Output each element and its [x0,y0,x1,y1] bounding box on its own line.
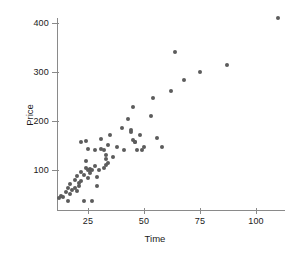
scatter-plot: 255075100 100200300400 Time Price [0,0,297,255]
y-axis-line [57,18,58,211]
data-point [66,199,70,203]
data-point [99,137,103,141]
data-point [198,70,202,74]
x-tick-label: 75 [195,216,205,226]
data-point [97,168,101,172]
data-point [86,147,90,151]
data-point [173,50,177,54]
y-tick-mark [52,72,59,73]
y-tick-mark [52,121,59,122]
data-point [82,173,86,177]
data-point [149,114,153,118]
data-point [115,145,119,149]
data-point [108,133,112,137]
y-tick-mark [52,23,59,24]
data-point [120,126,124,130]
data-point [142,145,146,149]
data-point [106,143,110,147]
data-point [131,105,135,109]
x-tick-label: 25 [83,216,93,226]
data-point [111,155,115,159]
x-tick-mark [200,208,201,214]
data-point [225,63,229,67]
data-point [276,16,280,20]
y-tick-label: 300 [18,67,49,77]
data-point [84,139,88,143]
data-point [169,89,173,93]
data-point [82,199,86,203]
data-point [106,161,110,165]
data-point [93,148,97,152]
y-tick-label: 400 [18,18,49,28]
data-point [79,140,83,144]
data-point [73,178,77,182]
y-axis-title: Price [24,85,35,145]
data-point [68,182,72,186]
data-point [79,179,83,183]
data-point [160,145,164,149]
data-point [135,148,139,152]
x-axis-line [57,210,285,211]
data-point [86,176,90,180]
data-point [64,190,68,194]
data-point [182,78,186,82]
data-point [155,136,159,140]
data-point [75,189,79,193]
x-tick-label: 50 [139,216,149,226]
data-point [75,174,79,178]
x-tick-mark [144,208,145,214]
data-point [90,199,94,203]
x-tick-label: 100 [248,216,264,226]
data-point [61,195,65,199]
data-point [138,133,142,137]
x-axis-title: Time [145,233,166,244]
data-point [102,148,106,152]
data-point [84,159,88,163]
data-point [95,184,99,188]
x-tick-mark [256,208,257,214]
data-point [88,171,92,175]
data-point [126,117,130,121]
data-point [122,148,126,152]
data-point [66,186,70,190]
data-point [129,130,133,134]
data-point [93,164,97,168]
y-tick-mark [52,170,59,171]
data-point [133,140,137,144]
data-point [95,175,99,179]
data-point [151,96,155,100]
x-tick-mark [88,208,89,214]
y-tick-label: 100 [18,165,49,175]
data-point [90,168,94,172]
data-point [68,192,72,196]
